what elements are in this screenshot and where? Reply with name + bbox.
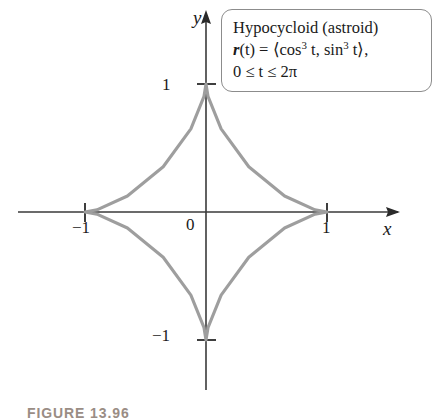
equation-part-1: (t) = ⟨cos: [239, 40, 301, 59]
origin-label: 0: [186, 216, 195, 233]
callout-domain: 0 ≤ t ≤ 2π: [233, 61, 422, 83]
annotation-callout-box: Hypocycloid (astroid) r(t) = ⟨cos3 t, si…: [221, 9, 432, 92]
callout-title: Hypocycloid (astroid): [233, 17, 422, 39]
x-tick-label-negative-one: −1: [72, 219, 90, 236]
y-tick-label-negative-one: −1: [152, 327, 170, 344]
y-axis-arrowhead: [201, 10, 211, 24]
equation-part-2: t, sin: [307, 40, 343, 59]
equation-part-3: t⟩,: [349, 40, 369, 59]
y-axis-label: y: [193, 8, 201, 27]
x-axis-arrowhead: [386, 207, 400, 217]
figure-container: y x 1 −1 −1 1 0 Hypocycloid (astroid) r(…: [0, 0, 441, 418]
figure-caption: FIGURE 13.96: [27, 405, 130, 418]
callout-equation: r(t) = ⟨cos3 t, sin3 t⟩,: [233, 39, 422, 61]
x-axis-label: x: [383, 219, 391, 238]
x-tick-label-positive-one: 1: [322, 219, 331, 236]
y-tick-label-positive-one: 1: [162, 76, 171, 93]
